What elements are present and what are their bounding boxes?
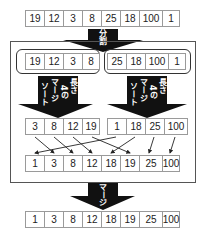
array-cell: 3	[25, 118, 45, 135]
array-cell: 3	[44, 211, 64, 228]
merged-array: 13812181925100	[25, 155, 180, 172]
array-cell: 100	[162, 211, 180, 228]
array-cell: 1	[25, 155, 45, 172]
left-half-array: 191238	[25, 53, 100, 70]
merge-label-char: ジ	[97, 199, 109, 206]
array-cell: 19	[82, 118, 100, 135]
array-cell: 1	[107, 118, 127, 135]
right-half-array: 25181001	[107, 53, 186, 70]
array-cell: 19	[25, 53, 45, 70]
array-cell: 8	[82, 53, 100, 70]
array-cell: 18	[101, 155, 121, 172]
sorted-left-array: 381219	[25, 118, 100, 135]
array-cell: 18	[126, 118, 146, 135]
array-cell: 8	[63, 155, 83, 172]
array-cell: 3	[44, 155, 64, 172]
array-cell: 3	[63, 53, 83, 70]
sort-label-col: ソート	[128, 82, 137, 106]
array-cell: 25	[145, 118, 165, 135]
sort-label-col: 長さ	[68, 78, 77, 94]
array-cell: 19	[120, 155, 140, 172]
array-cell: 100	[162, 155, 180, 172]
array-cell: 12	[44, 53, 64, 70]
array-cell: 25	[139, 211, 163, 228]
sorted-right-array: 11825100	[107, 118, 188, 135]
array-cell: 25	[139, 155, 163, 172]
array-cell: 1	[25, 211, 45, 228]
array-cell: 8	[44, 118, 64, 135]
sort-label-col: マージ	[138, 78, 147, 102]
output-array: 13812181925100	[25, 211, 180, 228]
sort-label-col: マージ	[49, 78, 58, 102]
array-cell: 8	[63, 211, 83, 228]
array-cell: 100	[145, 53, 169, 70]
merge-label: マ ー ジ	[97, 184, 109, 206]
sort-label-col: 4の	[148, 85, 157, 99]
array-cell: 18	[101, 211, 121, 228]
sort-label-col: 4の	[59, 85, 68, 99]
array-cell: 100	[164, 118, 188, 135]
array-cell: 18	[126, 53, 146, 70]
array-cell: 1	[168, 53, 186, 70]
array-cell: 12	[82, 211, 102, 228]
array-cell: 12	[82, 155, 102, 172]
sort-label-col: ソート	[39, 82, 48, 106]
array-cell: 25	[107, 53, 127, 70]
sort-label-col: 長さ	[157, 78, 166, 94]
array-cell: 19	[120, 211, 140, 228]
merge-label-char: マ	[97, 184, 109, 191]
array-cell: 12	[63, 118, 83, 135]
